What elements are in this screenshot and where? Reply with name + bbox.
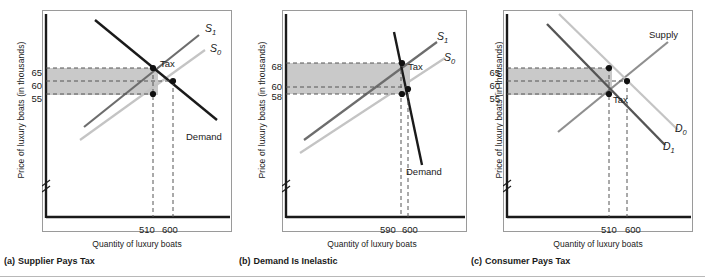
panel-a-supplier-pays-tax: Price of luxury boats (in thousands) 65 … — [0, 0, 235, 278]
tax-incidence-figure: Price of luxury boats (in thousands) 65 … — [0, 0, 705, 278]
panel-c-plot: Tax Supply D0 D1 — [503, 10, 693, 232]
panel-c-ytick-55: 55 — [478, 94, 500, 104]
panel-b-caption: (b)Demand Is Inelastic — [239, 256, 338, 266]
panel-a-xtick-510: 510 — [139, 225, 155, 235]
figure-bottom-rule — [0, 276, 705, 277]
panel-b-point-original-equilibrium — [405, 86, 411, 92]
panel-b-frame — [283, 11, 467, 232]
panel-c-caption: (c)Consumer Pays Tax — [471, 256, 570, 266]
panel-a-xtick-600: 600 — [162, 225, 178, 235]
panel-b-point-new-equilibrium — [399, 60, 405, 66]
panel-a-plot: Tax S1 S0 Demand — [42, 10, 232, 232]
panel-a-y-axis-title: Price of luxury boats (in thousands) — [16, 25, 26, 195]
panel-a-ytick-60: 60 — [20, 81, 42, 91]
panel-c-xtick-510: 510 — [601, 225, 617, 235]
panel-b-plot: Tax S1 S0 Demand — [282, 10, 467, 232]
panel-a-ytick-55: 55 — [20, 94, 42, 104]
panel-b-ytick-68: 68 — [260, 62, 282, 72]
panel-c-label-supply: Supply — [649, 29, 678, 40]
panel-b-y-axis-title: Price of luxury boats (in thousands) — [257, 25, 267, 195]
panel-c-ytick-65: 65 — [478, 68, 500, 78]
panel-c-ytick-60: 60 — [478, 81, 500, 91]
panel-b-ytick-58: 58 — [260, 92, 282, 102]
panel-c-point-new-equilibrium — [606, 91, 612, 97]
panel-a-frame — [43, 11, 232, 232]
panel-a-caption: (a)Supplier Pays Tax — [4, 256, 95, 266]
panel-b-label-demand: Demand — [406, 166, 442, 177]
panel-a-tax-label: Tax — [160, 58, 175, 69]
panel-b-x-axis-title: Quantity of luxury boats — [307, 239, 437, 249]
panel-c-caption-text: Consumer Pays Tax — [485, 256, 570, 266]
panel-c-consumer-pays-tax: Price of luxury boats (in thousands) 65 … — [470, 0, 705, 278]
panel-c-point-original-equilibrium — [624, 78, 630, 84]
panel-c-tax-label: Tax — [613, 94, 628, 105]
panel-a-point-new-equilibrium — [150, 65, 156, 71]
panel-c-point-consumer-price — [606, 65, 612, 71]
panel-b-demand-is-inelastic: Price of luxury boats (in thousands) 68 … — [235, 0, 470, 278]
panel-a-point-original-equilibrium — [170, 78, 176, 84]
panel-c-xtick-600: 600 — [625, 225, 641, 235]
panel-b-tax-band — [286, 63, 410, 94]
panel-a-point-supplier-price — [150, 91, 156, 97]
panel-b-xtick-600: 600 — [402, 225, 418, 235]
panel-a-ytick-65: 65 — [20, 68, 42, 78]
panel-b-point-supplier-price — [399, 91, 405, 97]
panel-b-caption-letter: (b) — [239, 256, 251, 266]
panel-c-x-axis-title: Quantity of luxury boats — [533, 239, 663, 249]
panel-a-caption-letter: (a) — [4, 256, 15, 266]
panel-a-label-demand: Demand — [186, 131, 222, 142]
panel-b-xtick-590: 590 — [380, 225, 396, 235]
panel-c-caption-letter: (c) — [471, 256, 482, 266]
panel-c-frame — [504, 11, 693, 232]
panel-a-caption-text: Supplier Pays Tax — [18, 256, 95, 266]
panel-b-tax-label: Tax — [408, 61, 423, 72]
panel-a-x-axis-title: Quantity of luxury boats — [72, 239, 202, 249]
panel-b-caption-text: Demand Is Inelastic — [254, 256, 338, 266]
